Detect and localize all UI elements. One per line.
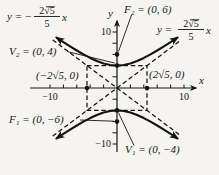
asymptote-negative-prefix: y = − — [6, 10, 32, 22]
asymptote-positive-suffix: x — [205, 24, 211, 36]
vertex-lower-label: V₁ = (0, −4) — [125, 143, 180, 156]
leader-vertex-upper — [67, 52, 115, 64]
focus-lower-label: F₁ = (0, −6) — [8, 113, 64, 126]
hyperbola-figure: y x −10 10 10 −10 F₂ = (0, 6) V₂ = (0, 4… — [0, 0, 219, 175]
x-intercept-left-point — [85, 86, 90, 91]
asymptote-positive-label: y = 2√5 5 x — [156, 18, 211, 42]
asymptote-positive-prefix: y = — [156, 23, 172, 35]
asymptote-negative-denominator: 5 — [45, 18, 50, 29]
x-intercept-left-label: (−2√5, 0) — [36, 69, 79, 82]
x-tick-label-pos10: 10 — [179, 91, 189, 102]
vertex-lower-point — [115, 108, 120, 113]
focus-upper-label: F₂ = (0, 6) — [123, 3, 172, 16]
vertex-upper-label: V₂ = (0, 4) — [9, 45, 57, 58]
x-tick-label-neg10: −10 — [42, 91, 58, 102]
x-intercept-right-point — [145, 86, 150, 91]
x-intercept-right-label: (2√5, 0) — [149, 68, 185, 81]
leader-vertex-lower — [119, 113, 135, 146]
focus-upper-point — [115, 52, 120, 57]
asymptote-negative-label: y = − 2√5 5 x — [6, 5, 67, 29]
y-tick-label-pos10: 10 — [101, 26, 111, 37]
leader-focus-upper — [119, 15, 132, 52]
y-tick-label-neg10: −10 — [95, 138, 111, 149]
vertex-upper-point — [115, 63, 120, 68]
focus-lower-point — [115, 119, 120, 124]
x-axis-label: x — [198, 74, 204, 86]
asymptote-negative-suffix: x — [61, 11, 67, 23]
y-axis-label: y — [107, 7, 113, 19]
asymptote-positive-denominator: 5 — [189, 31, 194, 42]
figure-canvas: y x −10 10 10 −10 F₂ = (0, 6) V₂ = (0, 4… — [0, 0, 219, 175]
